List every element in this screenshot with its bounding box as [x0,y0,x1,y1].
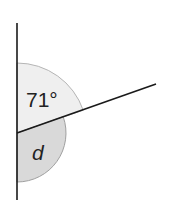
unknown-angle-label: d [32,141,45,164]
known-angle-label: 71° [26,88,58,111]
angle-diagram: 71° d [0,0,171,203]
